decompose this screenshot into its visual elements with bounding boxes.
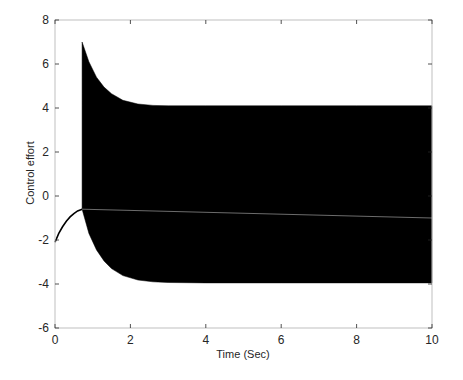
y-tick-label: -6 [38, 321, 49, 335]
x-tick-label: 10 [425, 333, 439, 347]
pre-switch-curve [55, 209, 82, 242]
x-tick-label: 8 [353, 333, 360, 347]
y-tick-label: -4 [38, 277, 49, 291]
y-tick-label: 0 [42, 189, 49, 203]
x-tick-label: 0 [52, 333, 59, 347]
x-axis-label: Time (Sec) [216, 348, 269, 360]
chart-figure: 0246810-6-4-202468 Time (Sec) Control ef… [0, 0, 463, 380]
y-tick-label: 6 [42, 57, 49, 71]
x-tick-label: 4 [202, 333, 209, 347]
x-tick-label: 6 [278, 333, 285, 347]
y-tick-label: 8 [42, 13, 49, 27]
chattering-band [82, 42, 432, 283]
x-tick-label: 2 [127, 333, 134, 347]
plot-area [55, 42, 432, 283]
y-tick-label: 2 [42, 145, 49, 159]
y-tick-label: 4 [42, 101, 49, 115]
y-tick-label: -2 [38, 233, 49, 247]
y-axis-label: Control effort [24, 141, 36, 204]
